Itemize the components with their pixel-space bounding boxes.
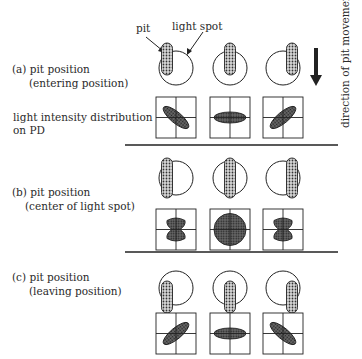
spot-with-pit-c-3 [266,271,300,313]
pit-shape [162,158,173,198]
section-c-subtitle: (leaving position) [29,285,122,298]
pd-pattern-c-1 [156,313,196,354]
section-b-title: (b) pit position [12,186,90,199]
pd-pattern-c-2 [210,313,250,354]
light-spot-pointer-arrow [187,32,203,55]
pit-shape [225,281,236,313]
diagram-canvas [0,0,362,359]
spot-with-pit-a-3 [266,43,300,85]
pd-pattern-b-3 [263,209,303,250]
spot-with-pit-b-3 [266,158,300,198]
spot-with-pit-b-1 [159,158,193,198]
spot-with-pit-a-2 [213,43,247,85]
light-spot-label: light spot [172,20,222,33]
pit-label: pit [136,22,150,35]
direction-arrow-icon [310,48,322,86]
pit-shape [287,43,298,75]
pit-shape [225,43,236,75]
spot-with-pit-b-2 [213,158,247,198]
intensity-label-line1: light intensity distribution [13,111,153,124]
section-c-title: (c) pit position [12,271,90,284]
pit-shape [162,281,173,313]
pd-pattern-b-2 [210,209,250,250]
intensity-label-line2: on PD [13,124,45,137]
section-a-subtitle: (entering position) [29,77,128,90]
pd-pattern-a-3 [263,97,303,138]
pit-shape [287,158,298,198]
pit-shape [225,158,236,198]
spot-with-pit-c-1 [159,271,193,313]
pd-pattern-b-1 [156,209,196,250]
spot-with-pit-c-2 [213,271,247,313]
direction-label: direction of pit movement [339,0,351,128]
pd-pattern-a-1 [156,97,196,138]
section-a-title: (a) pit position [12,63,90,76]
section-b-subtitle: (center of light spot) [25,200,135,213]
pd-pattern-c-3 [263,313,303,354]
pd-pattern-a-2 [210,97,250,138]
pit-shape [162,43,173,75]
pit-shape [287,281,298,313]
